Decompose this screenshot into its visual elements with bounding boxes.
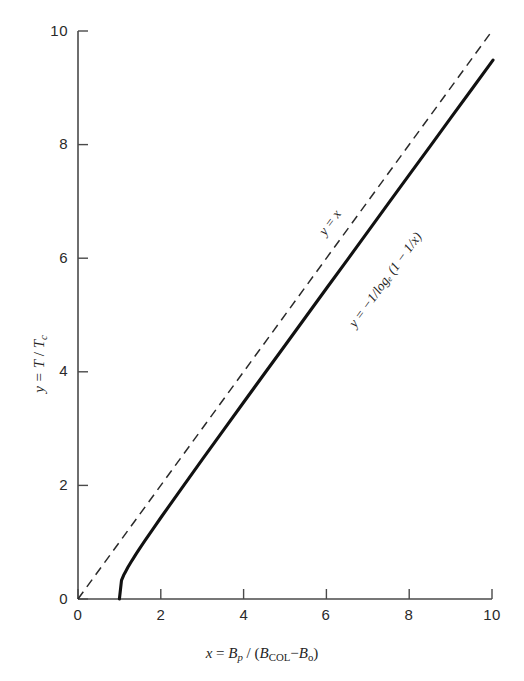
- x-tick-label-6: 6: [312, 606, 340, 623]
- y-tick-label-10: 10: [42, 22, 68, 39]
- identity-line-dashed: [78, 31, 492, 599]
- x-axis-title-minus: −: [290, 645, 298, 661]
- x-axis-title: x = Bp / (BCOL−Bo): [0, 645, 524, 663]
- y-axis-title-denominator-sub: c: [37, 335, 49, 340]
- x-axis-title-term1: B: [260, 645, 269, 661]
- log-curve-solid: [119, 60, 493, 599]
- x-axis-ticks: [78, 589, 492, 599]
- y-tick-label-0: 0: [42, 590, 68, 607]
- x-axis-title-term2: B: [299, 645, 308, 661]
- y-axis-title-eq: =: [31, 373, 47, 381]
- y-axis-ticks: [78, 31, 88, 599]
- x-axis-title-eq: =: [216, 645, 224, 661]
- y-axis-title: y = T / Tc: [31, 314, 49, 414]
- y-tick-label-8: 8: [42, 135, 68, 152]
- y-axis-title-denominator: T: [31, 340, 47, 348]
- x-tick-label-2: 2: [147, 606, 175, 623]
- x-tick-label-4: 4: [230, 606, 258, 623]
- x-tick-label-0: 0: [64, 606, 92, 623]
- x-tick-label-8: 8: [395, 606, 423, 623]
- y-axis-title-numerator: T: [31, 360, 47, 368]
- y-tick-label-6: 6: [42, 249, 68, 266]
- x-axis-title-close-paren: ): [313, 645, 318, 661]
- x-axis-title-term1-sub: COL: [269, 651, 291, 663]
- figure-container: 10 8 6 4 2 0 0 2 4 6 8 10 y = T / Tc x =…: [0, 0, 524, 681]
- y-axis-title-slash: /: [31, 352, 47, 356]
- y-axis-title-var: y: [31, 386, 47, 393]
- y-tick-label-2: 2: [42, 476, 68, 493]
- plot-canvas: [0, 0, 524, 681]
- x-tick-label-10: 10: [478, 606, 506, 623]
